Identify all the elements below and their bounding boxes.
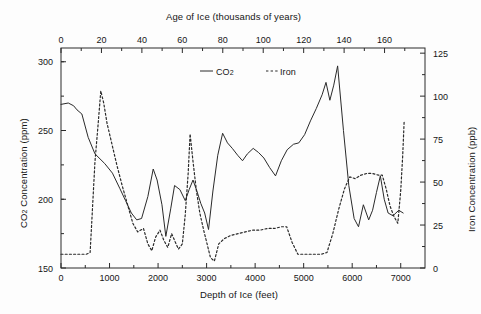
- top-tick-label: 160: [377, 35, 392, 45]
- top-tick-label: 80: [218, 35, 228, 45]
- bottom-tick-label: 7000: [391, 273, 411, 283]
- right-tick-label: 25: [433, 221, 443, 231]
- bottom-tick-label: 4000: [245, 273, 265, 283]
- top-tick-label: 100: [256, 35, 271, 45]
- left-tick-label: 200: [38, 195, 53, 205]
- series-co2: [61, 66, 403, 237]
- right-tick-label: 50: [433, 178, 443, 188]
- chart-figure: Age of Ice (thousands of years) Depth of…: [0, 0, 481, 314]
- top-tick-label: 40: [137, 35, 147, 45]
- bottom-tick-label: 2000: [148, 273, 168, 283]
- top-tick-label: 140: [337, 35, 352, 45]
- bottom-tick-label: 5000: [294, 273, 314, 283]
- right-tick-label: 100: [433, 92, 448, 102]
- series-iron: [61, 91, 404, 261]
- right-tick-label: 75: [433, 135, 443, 145]
- top-tick-label: 60: [177, 35, 187, 45]
- left-tick-label: 300: [38, 57, 53, 67]
- bottom-tick-label: 1000: [100, 273, 120, 283]
- plot-surface: 0100020003000400050006000700002040608010…: [0, 0, 481, 314]
- left-tick-label: 150: [38, 264, 53, 274]
- bottom-tick-label: 3000: [197, 273, 217, 283]
- bottom-tick-label: 6000: [342, 273, 362, 283]
- bottom-tick-label: 0: [58, 273, 63, 283]
- top-tick-label: 120: [296, 35, 311, 45]
- top-tick-label: 20: [96, 35, 106, 45]
- left-tick-label: 250: [38, 126, 53, 136]
- right-tick-label: 125: [433, 49, 448, 59]
- right-tick-label: 0: [433, 264, 438, 274]
- top-tick-label: 0: [58, 35, 63, 45]
